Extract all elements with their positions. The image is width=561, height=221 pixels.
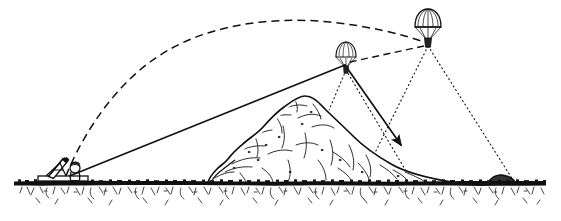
sight-line-down — [345, 65, 401, 145]
flare-right-body — [425, 38, 432, 47]
flare-left — [336, 42, 356, 73]
diagram-canvas — [0, 0, 561, 221]
illumination-diagram — [0, 0, 561, 221]
flare-right-shroud-lines — [415, 27, 441, 39]
flare-right — [415, 9, 441, 47]
hill — [208, 96, 455, 183]
flare-descent-path — [350, 46, 424, 62]
flare-left-body — [344, 66, 349, 73]
mortar — [38, 157, 88, 181]
mortar-baseplate — [38, 176, 88, 181]
light-cone-right-edge-2 — [428, 46, 513, 180]
descent-dash — [350, 46, 424, 62]
ground-grass — [20, 187, 544, 205]
ground-mound-fill — [489, 174, 515, 183]
